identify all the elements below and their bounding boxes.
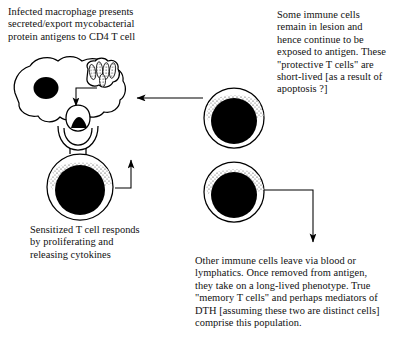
caption-sensitized-t-cell: Sensitized T cell responds by proliferat… xyxy=(30,224,210,261)
sensitized-t-cell-nucleus xyxy=(55,165,105,215)
diagram-canvas: Infected macrophage presents secreted/ex… xyxy=(0,0,413,342)
memory-t-cell-nucleus xyxy=(211,172,257,218)
memory-to-caption-arrow xyxy=(264,190,313,242)
sensitized-to-protective-arrow xyxy=(115,160,131,188)
protective-t-cell-figure xyxy=(204,88,264,148)
sensitized-t-cell-figure xyxy=(47,154,113,220)
macrophage-nucleus xyxy=(34,77,59,99)
caption-memory-t-cells: Other immune cells leave via blood or ly… xyxy=(195,255,413,329)
caption-protective-t-cells: Some immune cells remain in lesion and h… xyxy=(277,9,413,96)
memory-t-cell-figure xyxy=(204,162,264,222)
caption-infected-macrophage: Infected macrophage presents secreted/ex… xyxy=(8,6,218,43)
protective-t-cell-nucleus xyxy=(211,98,257,144)
mycobacterium-bacillus xyxy=(99,74,105,87)
